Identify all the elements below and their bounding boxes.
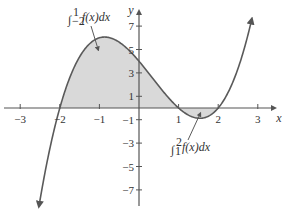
y-tick-label: −3 <box>122 137 134 149</box>
integral-label-left: ∫1−2f(x)dx <box>67 5 111 28</box>
function-graph: −3−2−11237531−1−3−5−7xy ∫1−2f(x)dx∫21f(x… <box>0 0 286 215</box>
y-axis-label: y <box>127 3 134 17</box>
lower-limit: 1 <box>175 144 181 158</box>
x-tick-label: 2 <box>215 113 221 125</box>
integral-label-right: ∫21f(x)dx <box>170 135 211 158</box>
y-tick-label: 1 <box>129 90 135 102</box>
x-axis-label: x <box>275 111 282 125</box>
x-tick-label: −3 <box>14 113 26 125</box>
x-tick-label: 1 <box>176 113 182 125</box>
shaded-region-left <box>60 37 179 108</box>
x-tick-label: −2 <box>54 113 66 125</box>
y-tick-label: −5 <box>122 161 134 173</box>
y-tick-label: 5 <box>129 44 135 56</box>
integrand: f(x)dx <box>182 140 211 154</box>
y-tick-label: −1 <box>122 114 134 126</box>
integrand: f(x)dx <box>82 10 111 24</box>
y-tick-label: −7 <box>122 184 134 196</box>
x-tick-label: 3 <box>255 113 261 125</box>
x-tick-label: −1 <box>94 113 106 125</box>
y-tick-label: 7 <box>129 20 135 32</box>
y-tick-label: 3 <box>129 67 135 79</box>
